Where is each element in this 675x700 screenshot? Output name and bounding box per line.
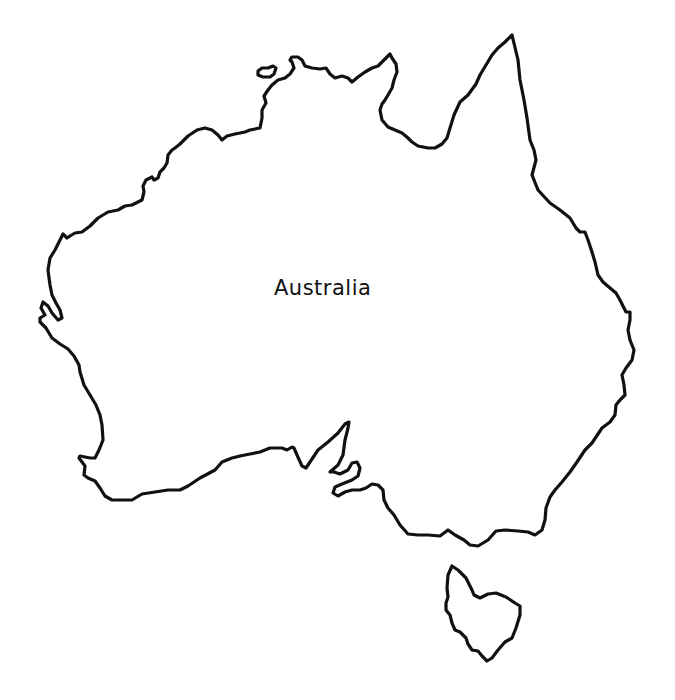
tasmania-outline (446, 566, 520, 661)
australia-map (0, 0, 675, 700)
map-label-australia: Australia (274, 276, 371, 300)
melville-island-outline (258, 66, 276, 77)
